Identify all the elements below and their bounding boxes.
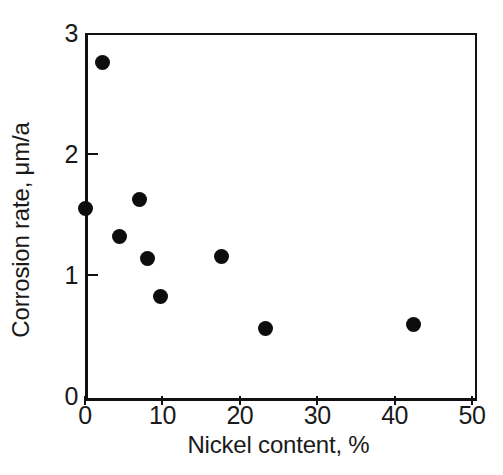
- y-tick-label-2: 2: [65, 141, 78, 167]
- y-tick-2: [88, 153, 98, 155]
- y-tick-label-1: 1: [65, 262, 78, 288]
- y-tick-1: [88, 274, 98, 276]
- y-axis-title-holder: Corrosion rate, μm/a: [3, 30, 39, 430]
- scatter-chart-figure: 01020304050 0123 Nickel content, % Corro…: [0, 0, 503, 475]
- y-tick-label-0: 0: [65, 383, 78, 409]
- x-tick-label-10: 10: [132, 400, 192, 430]
- x-tick-label-40: 40: [365, 400, 425, 430]
- y-tick-label-3: 3: [65, 20, 78, 46]
- plot-frame: [85, 33, 477, 401]
- x-axis-title: Nickel content, %: [85, 431, 472, 459]
- y-axis-title: Corrosion rate, μm/a: [7, 122, 35, 337]
- x-tick-label-50: 50: [442, 400, 502, 430]
- x-tick-label-20: 20: [210, 400, 270, 430]
- x-tick-label-30: 30: [287, 400, 347, 430]
- caption-remnant: [0, 464, 503, 475]
